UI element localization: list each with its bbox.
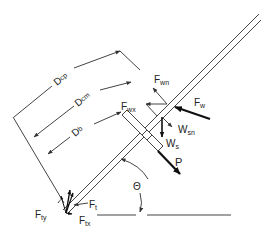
ft-label: Ft <box>89 199 97 211</box>
dimension-db <box>48 112 121 154</box>
fw-components <box>146 88 167 116</box>
ftx-label: Ftx <box>79 215 91 227</box>
fw-label: Fw <box>194 97 206 109</box>
fwx-label: Fwx <box>121 101 136 113</box>
force-wsn-arrow <box>162 117 172 127</box>
base-extension-line <box>13 117 64 203</box>
dcm-label: Dcm <box>72 89 92 108</box>
wsn-label: Wsn <box>178 124 195 136</box>
p-label: P <box>175 156 182 168</box>
fty-label: Fty <box>35 209 47 222</box>
fwn-label: Fwn <box>154 74 169 86</box>
ws-label: Ws <box>166 138 179 150</box>
theta-label: Θ <box>133 181 141 192</box>
pole <box>63 14 261 214</box>
db-label: Db <box>69 123 85 139</box>
tip-forces <box>58 190 88 214</box>
free-body-diagram: Dcp Dcm Db P Fw Fwn Fwx Wsn <box>0 0 261 232</box>
dcp-label: Dcp <box>51 70 69 88</box>
